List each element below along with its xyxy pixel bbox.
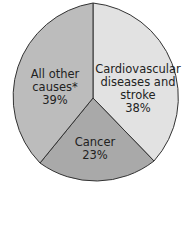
label-pct: 39% bbox=[20, 94, 90, 107]
label-cancer: Cancer 23% bbox=[60, 136, 130, 162]
label-pct: 23% bbox=[60, 149, 130, 162]
label-cardio: Cardiovascular diseases and stroke 38% bbox=[94, 63, 182, 115]
label-other: All other causes* 39% bbox=[20, 68, 90, 107]
label-pct: 38% bbox=[94, 102, 182, 115]
